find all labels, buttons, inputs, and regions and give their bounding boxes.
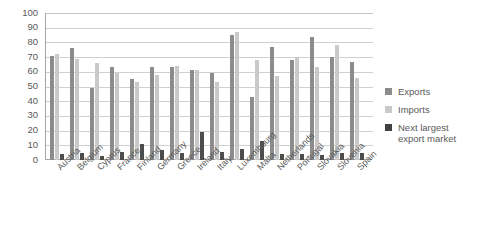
bar-group [130,13,144,160]
bar-group [90,13,104,160]
y-axis-tick-label: 70 [0,52,38,62]
bar-group [230,13,244,160]
legend-label: Imports [398,104,430,115]
bar-group [170,13,184,160]
bar-group [70,13,84,160]
y-axis-tick-label: 90 [0,22,38,32]
y-axis-tick-label: 80 [0,37,38,47]
legend-label: Exports [398,86,430,97]
legend-item[interactable]: Imports [385,104,485,115]
legend-swatch-nextmkt [385,124,392,131]
bar-exports[interactable] [50,56,54,160]
bar-group [210,13,224,160]
legend-swatch-exports [385,88,392,95]
bar-group [330,13,344,160]
legend-item[interactable]: Next largest export market [385,122,485,144]
bar-imports[interactable] [275,76,279,160]
bar-group [150,13,164,160]
y-axis-tick-label: 60 [0,66,38,76]
bar-group [50,13,64,160]
chart-legend: ExportsImportsNext largest export market [385,86,485,151]
y-axis-tick-label: 50 [0,81,38,91]
y-axis-tick-label: 10 [0,140,38,150]
bar-group [110,13,124,160]
bar-exports[interactable] [330,57,334,160]
bar-chart: 1009080706050403020100 AustriaBelgiumCyp… [0,0,485,243]
bar-imports[interactable] [235,32,239,160]
bar-group [190,13,204,160]
bar-exports[interactable] [70,48,74,160]
bar-imports[interactable] [55,54,59,160]
bar-series-container [46,13,372,160]
y-axis-tick-label: 100 [0,8,38,18]
legend-item[interactable]: Exports [385,86,485,97]
x-axis-labels: AustriaBelgiumCyprusFranceFinlandGermany… [0,160,485,243]
y-axis-tick-label: 40 [0,96,38,106]
bar-group [350,13,364,160]
bar-exports[interactable] [230,35,234,160]
y-axis-tick-label: 20 [0,125,38,135]
legend-label: Next largest export market [398,122,456,144]
legend-swatch-imports [385,106,392,113]
y-axis-tick-label: 30 [0,110,38,120]
